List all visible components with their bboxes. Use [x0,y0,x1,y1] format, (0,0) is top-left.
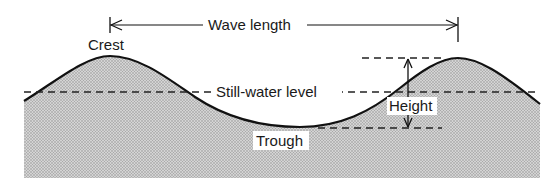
water-body [24,56,540,178]
still-water-level-label: Still-water level [216,83,317,100]
height-label: Height [389,97,433,114]
trough-label: Trough [256,132,303,149]
wave-length-label: Wave length [208,16,291,33]
wave-diagram: Still-water level Crest Wave length Heig… [0,0,559,185]
crest-label: Crest [88,36,125,53]
